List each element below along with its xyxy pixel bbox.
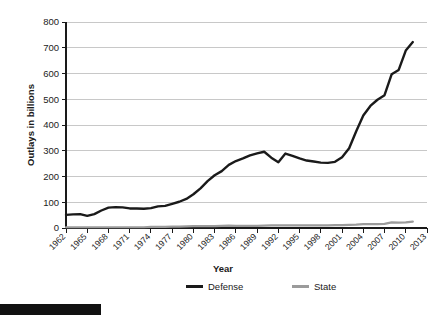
x-axis-title: Year [213, 263, 233, 274]
y-tick-700: 700 [43, 42, 59, 53]
y-tick-400: 400 [43, 119, 59, 130]
footer-black-bar [0, 304, 101, 315]
y-tick-200: 200 [43, 171, 59, 182]
y-tick-300: 300 [43, 145, 59, 156]
y-axis-tick-labels: 0100200300400500600700800 [43, 16, 59, 233]
y-tick-600: 600 [43, 68, 59, 79]
y-axis-title: Outlays in billions [25, 84, 36, 166]
y-tick-800: 800 [43, 16, 59, 27]
y-tick-500: 500 [43, 94, 59, 105]
y-tick-0: 0 [54, 222, 59, 233]
legend-label-defense: Defense [208, 281, 243, 292]
chart-figure: 0100200300400500600700800 19621965196819… [0, 0, 446, 315]
y-tick-100: 100 [43, 197, 59, 208]
legend-label-state: State [314, 281, 336, 292]
